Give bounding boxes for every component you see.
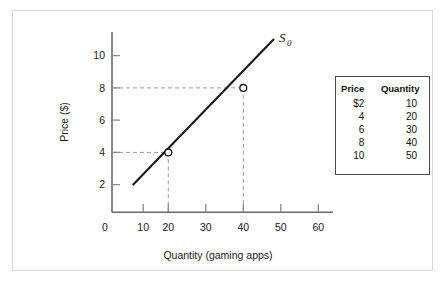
y-axis-tick-labels: 2 4 6 8 10 [93, 49, 105, 190]
supply-curve-label-s: S [279, 30, 286, 45]
x-tick-label-40: 40 [237, 221, 249, 233]
table-row: 4 20 [336, 110, 429, 123]
y-tick-label-8: 8 [99, 82, 105, 94]
x-axis-title: Quantity (gaming apps) [163, 249, 272, 261]
table-row: 10 50 [336, 149, 429, 162]
supply-curve-label: S 0 [279, 30, 292, 48]
x-tick-label-20: 20 [162, 221, 174, 233]
table-cell-price: 6 [336, 123, 373, 136]
table-cell-price: 4 [336, 110, 373, 123]
y-axis-ticks [112, 56, 120, 185]
y-tick-label-6: 6 [99, 114, 105, 126]
table-cell-quantity: 40 [373, 136, 429, 149]
table-cell-quantity: 20 [373, 110, 429, 123]
table-cell-price: 8 [336, 136, 373, 149]
x-tick-label-10: 10 [137, 221, 149, 233]
x-axis-ticks [143, 204, 318, 212]
table-header-quantity: Quantity [373, 83, 429, 97]
annotation-dashed-lines [112, 88, 243, 212]
supply-curve-figure: 2 4 6 8 10 0 10 20 30 40 50 60 [0, 0, 446, 284]
table-body: $2 10 4 20 6 30 8 40 10 50 [336, 97, 429, 162]
price-quantity-table: Price Quantity $2 10 4 20 6 30 8 [335, 76, 430, 175]
table-row: 8 40 [336, 136, 429, 149]
y-axis-title: Price ($) [58, 102, 70, 142]
table-cell-price: $2 [336, 97, 373, 110]
supply-curve-label-subscript: 0 [287, 38, 292, 48]
curve-point-markers [165, 85, 247, 156]
x-axis-tick-labels: 0 10 20 30 40 50 60 [102, 221, 324, 233]
x-tick-label-30: 30 [200, 221, 212, 233]
table-row: $2 10 [336, 97, 429, 110]
marker-point-20-4 [165, 149, 172, 156]
x-tick-label-50: 50 [275, 221, 287, 233]
chart-axes [112, 32, 333, 213]
y-tick-label-2: 2 [99, 178, 105, 190]
x-tick-label-0: 0 [102, 221, 108, 233]
table-cell-quantity: 10 [373, 97, 429, 110]
table-header-row: Price Quantity [336, 83, 429, 97]
table-header-price: Price [336, 83, 373, 97]
table-cell-quantity: 50 [373, 149, 429, 162]
y-tick-label-10: 10 [93, 49, 105, 61]
data-table: Price Quantity $2 10 4 20 6 30 8 [336, 83, 429, 162]
supply-curve-line [133, 40, 273, 185]
table-header: Price Quantity [336, 83, 429, 97]
marker-point-40-8 [240, 85, 247, 92]
table-cell-price: 10 [336, 149, 373, 162]
table-cell-quantity: 30 [373, 123, 429, 136]
table-row: 6 30 [336, 123, 429, 136]
x-tick-label-60: 60 [312, 221, 324, 233]
y-tick-label-4: 4 [99, 146, 105, 158]
